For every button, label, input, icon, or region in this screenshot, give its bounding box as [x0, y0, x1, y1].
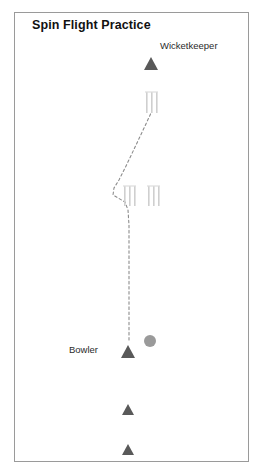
bowling-end-stumps-left: [123, 185, 136, 206]
bowling-end-stumps-right: [147, 185, 160, 206]
wicketkeeper-marker: [144, 57, 158, 70]
spin-flight-practice-diagram: Spin Flight Practice: [0, 0, 263, 475]
bowler-marker: [121, 345, 135, 358]
batting-end-stumps: [145, 91, 158, 113]
pitch-canvas: [14, 12, 249, 462]
ball-flight-path: [113, 113, 151, 340]
wicketkeeper-label: Wicketkeeper: [160, 40, 218, 51]
fielder-marker-1: [122, 404, 134, 415]
fielder-marker-2: [122, 444, 134, 455]
cricket-ball: [144, 335, 156, 347]
bowler-label: Bowler: [69, 344, 98, 355]
